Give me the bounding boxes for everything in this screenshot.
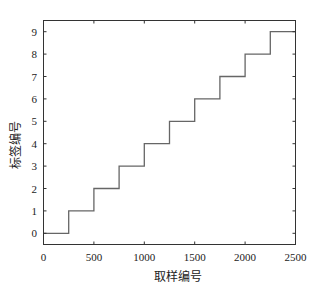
x-tick-label: 1000 bbox=[133, 251, 156, 263]
step-series-line bbox=[44, 32, 296, 234]
x-tick-label: 2000 bbox=[234, 251, 257, 263]
plot-area bbox=[44, 32, 296, 234]
x-axis-label: 取样编号 bbox=[154, 269, 202, 284]
x-tick-label: 1500 bbox=[184, 251, 207, 263]
x-tick-labels: 05001000150020002500 bbox=[41, 251, 307, 263]
y-tick-label: 6 bbox=[32, 93, 38, 105]
step-chart: 05001000150020002500 0123456789 取样编号 标签编… bbox=[0, 0, 318, 296]
y-tick-label: 2 bbox=[32, 183, 38, 195]
y-axis-label: 标签编号 bbox=[8, 121, 23, 169]
x-tick-label: 0 bbox=[41, 251, 47, 263]
y-tick-label: 1 bbox=[32, 205, 38, 217]
x-tick-label: 500 bbox=[86, 251, 103, 263]
x-tick-label: 2500 bbox=[285, 251, 308, 263]
y-tick-label: 7 bbox=[32, 71, 38, 83]
y-tick-labels: 0123456789 bbox=[32, 26, 38, 240]
y-tick-label: 4 bbox=[32, 138, 38, 150]
y-tick-label: 3 bbox=[32, 160, 38, 172]
y-tick-label: 0 bbox=[32, 227, 38, 239]
y-tick-label: 5 bbox=[32, 115, 38, 127]
y-tick-label: 9 bbox=[32, 26, 38, 38]
y-tick-label: 8 bbox=[32, 48, 38, 60]
